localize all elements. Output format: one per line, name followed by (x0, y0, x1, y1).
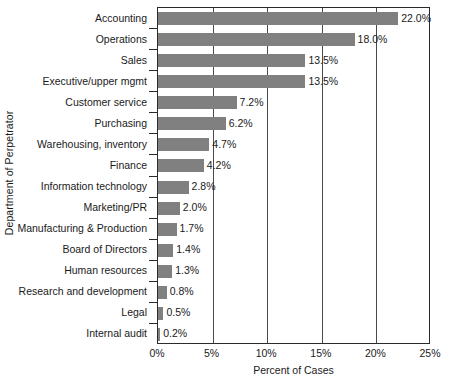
value-label: 0.2% (163, 326, 187, 340)
category-label: Board of Directors (62, 242, 147, 256)
category-label: Manufacturing & Production (17, 221, 147, 235)
bar-chart: Department of Perpetrator AccountingOper… (0, 0, 456, 387)
y-tick-mark (149, 323, 157, 324)
bar (158, 328, 160, 341)
x-tick-label: 0% (149, 347, 164, 359)
y-tick-mark (149, 239, 157, 240)
category-label: Human resources (64, 263, 147, 277)
y-axis-title-text: Department of Perpetrator (3, 110, 15, 234)
y-tick-mark (149, 281, 157, 282)
value-label: 22.0% (401, 11, 431, 25)
y-tick-mark (149, 302, 157, 303)
x-tick-label: 10% (256, 347, 277, 359)
category-label: Customer service (65, 95, 147, 109)
x-tick-label: 15% (310, 347, 331, 359)
category-label: Information technology (41, 179, 147, 193)
y-tick-mark (149, 197, 157, 198)
y-tick-mark (149, 133, 157, 134)
category-label: Purchasing (94, 116, 147, 130)
bar (158, 54, 305, 67)
y-tick-mark (149, 91, 157, 92)
value-label: 13.5% (308, 74, 338, 88)
value-label: 7.2% (240, 95, 264, 109)
category-label: Marketing/PR (83, 200, 147, 214)
bar (158, 181, 189, 194)
bar (158, 307, 163, 320)
category-label: Accounting (95, 11, 147, 25)
bar (158, 265, 172, 278)
value-label: 4.2% (207, 158, 231, 172)
y-tick-mark (149, 49, 157, 50)
x-tick-label: 25% (419, 347, 440, 359)
value-label: 2.0% (183, 200, 207, 214)
value-label: 4.7% (212, 137, 236, 151)
y-tick-mark (149, 260, 157, 261)
y-axis-category-labels: AccountingOperationsSalesExecutive/upper… (18, 7, 152, 344)
x-tick-label: 5% (204, 347, 219, 359)
y-tick-mark (149, 154, 157, 155)
value-label: 2.8% (192, 179, 216, 193)
y-tick-mark (149, 28, 157, 29)
bar (158, 33, 355, 46)
x-tick-label: 20% (365, 347, 386, 359)
x-axis-title: Percent of Cases (157, 364, 430, 376)
plot-area (157, 7, 430, 344)
y-tick-mark (149, 218, 157, 219)
bar (158, 159, 204, 172)
category-label: Operations (96, 32, 147, 46)
category-label: Sales (121, 53, 147, 67)
category-label: Internal audit (86, 326, 147, 340)
bar (158, 117, 226, 130)
category-label: Warehousing, inventory (37, 137, 147, 151)
bar (158, 244, 173, 257)
value-label: 18.0% (358, 32, 388, 46)
bar (158, 75, 305, 88)
value-label: 13.5% (308, 53, 338, 67)
category-label: Legal (121, 305, 147, 319)
value-label: 1.4% (176, 242, 200, 256)
bar (158, 138, 209, 151)
value-label: 6.2% (229, 116, 253, 130)
bar (158, 286, 167, 299)
bar (158, 96, 237, 109)
value-label: 1.3% (175, 263, 199, 277)
bar (158, 202, 180, 215)
value-label: 0.5% (166, 305, 190, 319)
value-label: 1.7% (180, 221, 204, 235)
y-axis-title: Department of Perpetrator (0, 0, 18, 345)
y-tick-mark (149, 176, 157, 177)
value-label: 0.8% (170, 284, 194, 298)
gridline (376, 8, 377, 343)
y-tick-mark (149, 112, 157, 113)
y-tick-mark (149, 70, 157, 71)
bar (158, 12, 398, 25)
bar (158, 223, 177, 236)
category-label: Research and development (19, 284, 147, 298)
category-label: Finance (110, 158, 147, 172)
category-label: Executive/upper mgmt (43, 74, 147, 88)
